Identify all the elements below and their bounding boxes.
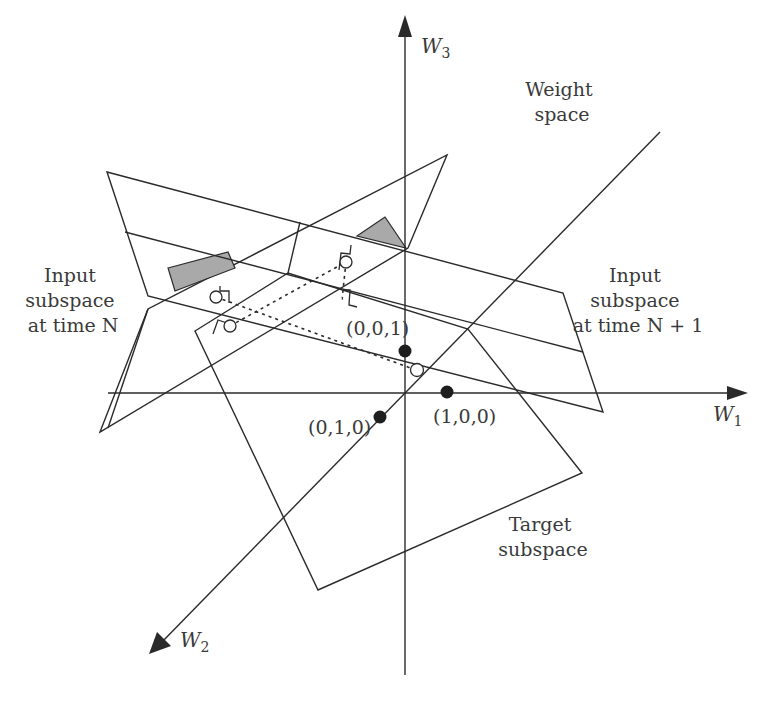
- plane-intersection-line-2: [288, 222, 300, 273]
- point-label-010: (0,1,0): [308, 416, 371, 438]
- input-subspace-n1-label: Input subspace at time N + 1: [573, 264, 704, 336]
- open-point-n1: [340, 256, 352, 268]
- filled-point-010: [374, 411, 387, 424]
- weight-space-label: Weight space: [525, 78, 598, 125]
- filled-point-001: [399, 345, 412, 358]
- target-subspace-label: Target subspace: [498, 513, 587, 560]
- filled-point-100: [441, 386, 454, 399]
- w3-arrowhead: [398, 15, 412, 37]
- diagram-canvas: (0,0,1) (1,0,0) (0,1,0) W3 W1 W2 Weight …: [0, 0, 783, 702]
- gray-patch-top: [357, 217, 406, 248]
- input-subspace-n-plane: [100, 155, 447, 432]
- w3-axis-label: W3: [421, 34, 450, 61]
- open-point-n: [210, 291, 222, 303]
- point-label-100: (1,0,0): [433, 405, 496, 427]
- open-point-target: [411, 364, 424, 377]
- w1-arrowhead: [727, 386, 748, 400]
- point-label-001: (0,0,1): [346, 317, 409, 339]
- open-point-dashed: [330, 295, 342, 307]
- open-point-projection-left: [224, 320, 236, 332]
- w2-axis: [160, 132, 660, 644]
- w1-axis-label: W1: [713, 402, 742, 429]
- input-subspace-n-label: Input subspace at time N: [25, 264, 120, 336]
- w2-axis-label: W2: [180, 628, 209, 655]
